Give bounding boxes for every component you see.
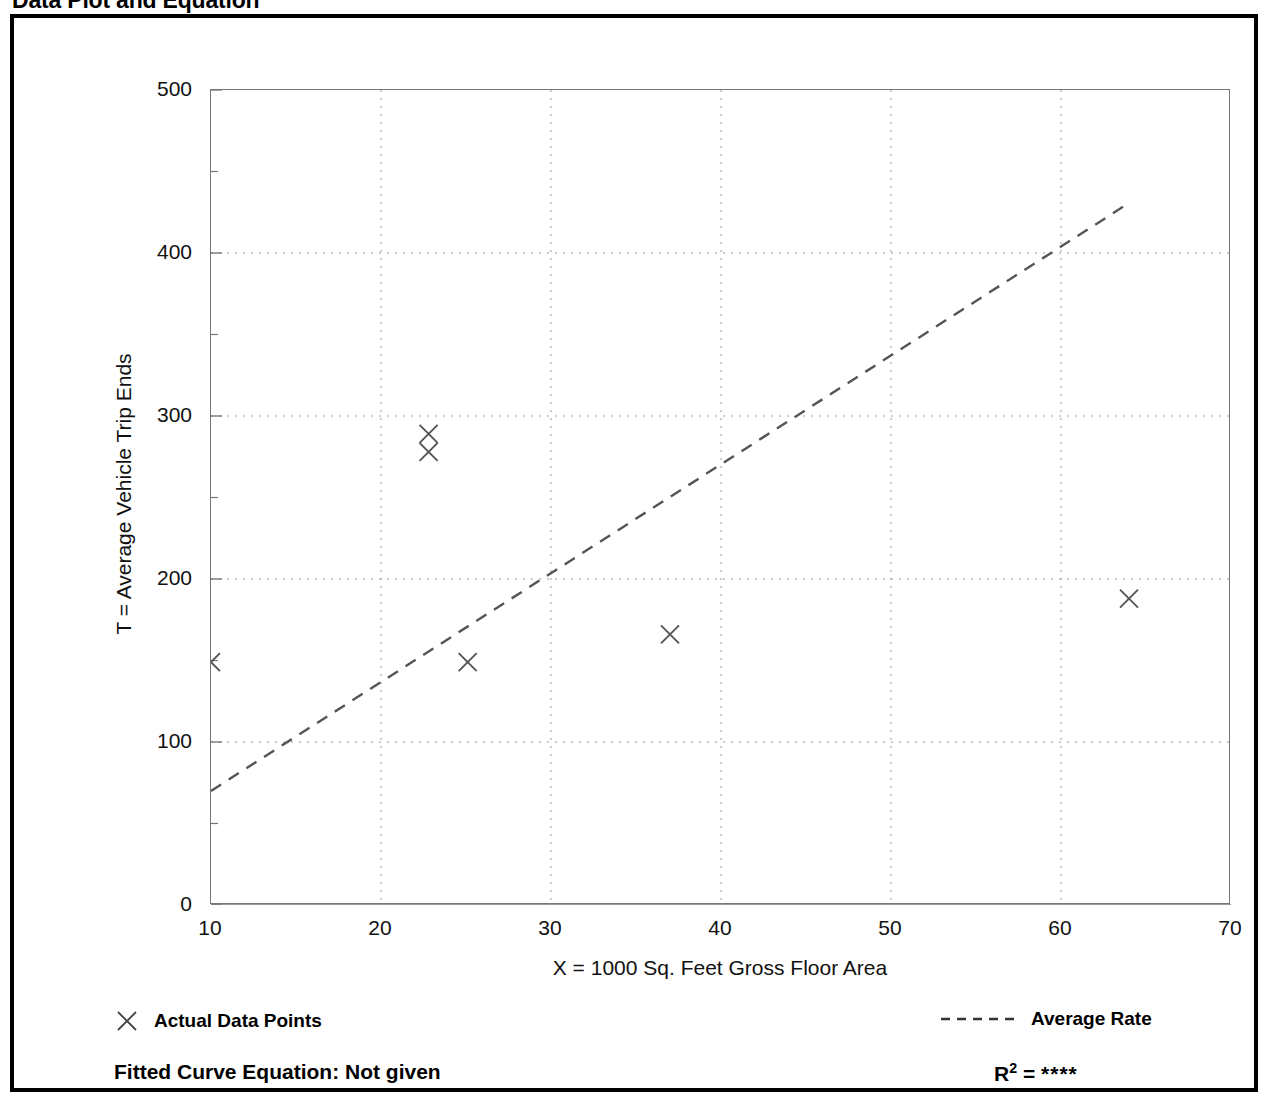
data-point-marker [420, 443, 438, 461]
r-squared-value: R2 = **** [994, 1060, 1078, 1086]
fitted-curve-equation-text: Fitted Curve Equation: Not given [114, 1060, 441, 1084]
figure-frame: 0100200300400500 10203040506070 X = 1000… [10, 14, 1258, 1092]
r-squared-stars: **** [1041, 1062, 1078, 1085]
x-axis-title: X = 1000 Sq. Feet Gross Floor Area [210, 956, 1230, 980]
axis-ticks [211, 90, 1231, 905]
chart-legend: Actual Data Points Average Rate [14, 1008, 1262, 1048]
legend-entry-average-rate: Average Rate [939, 1008, 1152, 1030]
r-squared-exponent: 2 [1009, 1060, 1017, 1076]
plot-area [210, 89, 1230, 904]
x-axis-tick-label: 60 [1048, 916, 1071, 940]
data-point-marker [211, 653, 220, 671]
x-axis-tick-label: 50 [878, 916, 901, 940]
y-axis-tick-labels: 0100200300400500 [132, 89, 192, 904]
average-rate-trend-line [211, 204, 1127, 791]
gridlines [211, 90, 1231, 905]
x-axis-tick-label: 20 [368, 916, 391, 940]
x-axis-tick-label: 70 [1218, 916, 1241, 940]
y-axis-tick-label: 400 [157, 240, 192, 264]
data-point-marker [459, 653, 477, 671]
y-axis-tick-label: 0 [180, 892, 192, 916]
plot-svg [211, 90, 1231, 905]
average-rate-line [211, 204, 1127, 791]
legend-label-actual-data-points: Actual Data Points [154, 1010, 322, 1032]
y-axis-tick-label: 100 [157, 729, 192, 753]
data-point-marker [661, 625, 679, 643]
actual-data-point-markers [211, 425, 1138, 671]
r-squared-symbol: R [994, 1062, 1009, 1085]
page-title: Data Plot and Equation [12, 0, 259, 14]
legend-label-average-rate: Average Rate [1031, 1008, 1152, 1030]
x-axis-tick-labels: 10203040506070 [210, 916, 1230, 946]
dashed-line-icon [939, 1012, 1017, 1026]
data-point-marker [1120, 590, 1138, 608]
y-axis-title: T = Average Vehicle Trip Ends [112, 94, 136, 894]
y-axis-tick-label: 300 [157, 403, 192, 427]
y-axis-tick-label: 500 [157, 77, 192, 101]
data-point-marker [420, 425, 438, 443]
chart-footer: Fitted Curve Equation: Not given R2 = **… [14, 1060, 1262, 1104]
y-axis-tick-label: 200 [157, 566, 192, 590]
r-squared-equals: = [1017, 1062, 1041, 1085]
x-axis-tick-label: 30 [538, 916, 561, 940]
x-axis-tick-label: 10 [198, 916, 221, 940]
legend-entry-actual-data-points: Actual Data Points [114, 1008, 322, 1034]
x-axis-tick-label: 40 [708, 916, 731, 940]
x-marker-icon [114, 1008, 140, 1034]
